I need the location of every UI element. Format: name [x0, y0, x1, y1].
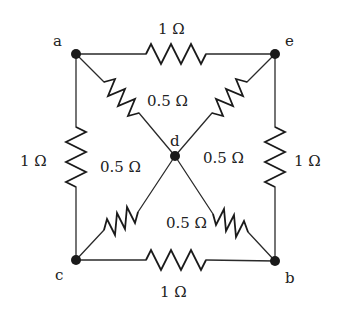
resistor-a-c: [66, 54, 86, 260]
label-resistor-e-d: 0.5 Ω: [203, 149, 244, 167]
label-resistor-a-e: 1 Ω: [158, 20, 185, 38]
label-resistor-a-c: 1 Ω: [20, 152, 47, 170]
node-a: [71, 49, 81, 59]
label-resistor-b-d: 0.5 Ω: [166, 214, 207, 232]
node-c: [71, 255, 81, 265]
node-e: [270, 49, 280, 59]
resistor-a-e: [76, 44, 275, 64]
resistor-c-b: [76, 250, 275, 270]
resistor-e-d: [175, 54, 275, 156]
label-resistor-c-b: 1 Ω: [160, 283, 187, 301]
node-label-b: b: [285, 269, 295, 287]
node-label-e: e: [285, 32, 294, 50]
node-b: [270, 256, 280, 266]
node-d: [170, 151, 180, 161]
node-label-a: a: [53, 32, 62, 50]
label-resistor-c-d: 0.5 Ω: [100, 158, 141, 176]
node-label-d: d: [170, 132, 180, 150]
resistor-network-diagram: a e c b d 1 Ω 1 Ω 1 Ω 1 Ω 0.5 Ω 0.5 Ω 0.…: [0, 0, 345, 317]
resistor-e-b: [265, 54, 285, 261]
resistor-b-d: [175, 156, 275, 261]
label-resistor-a-d: 0.5 Ω: [147, 92, 188, 110]
node-label-c: c: [55, 266, 63, 284]
label-resistor-e-b: 1 Ω: [294, 152, 321, 170]
